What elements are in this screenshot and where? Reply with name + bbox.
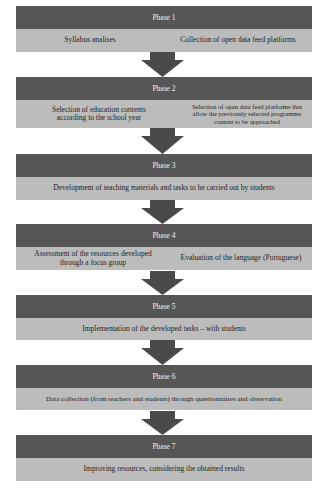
phase-1-body: Syllabus analises Collection of open dat… [16,29,312,52]
phase-7: Phase 7 Improving resources, considering… [16,435,312,481]
phase-6-title: Phase 6 [16,365,312,388]
phase-6-body: Data collection (from teachers and stude… [16,388,312,410]
phase-1-item-2: Collection of open data feed platforms [164,36,312,45]
phase-5-item-1: Implementation of the developed tasks – … [16,325,312,334]
phase-5: Phase 5 Implementation of the developed … [16,295,312,340]
phase-4: Phase 4 Assessment of the resources deve… [16,224,312,270]
phase-1-item-1: Syllabus analises [16,36,164,45]
down-arrow-icon [141,411,184,436]
phase-3-body: Development of teaching materials and ta… [16,177,312,200]
phase-3: Phase 3 Development of teaching material… [16,154,312,200]
down-arrow-icon [141,200,184,225]
phase-2-title: Phase 2 [16,77,312,100]
phase-4-item-1: Assessment of the resources developed th… [16,250,170,267]
phase-2-item-2: Selection of open data feed platforms th… [182,103,312,126]
phase-6-item-1: Data collection (from teachers and stude… [16,395,312,404]
phase-5-body: Implementation of the developed tasks – … [16,318,312,340]
phase-1: Phase 1 Syllabus analises Collection of … [16,6,312,52]
phase-6: Phase 6 Data collection (from teachers a… [16,365,312,410]
phase-4-title: Phase 4 [16,224,312,247]
phase-7-body: Improving resources, considering the obt… [16,458,312,481]
phase-3-title: Phase 3 [16,154,312,177]
phase-3-item-1: Development of teaching materials and ta… [16,184,312,193]
phase-2-body: Selection of education contents accordin… [16,100,312,128]
down-arrow-icon [141,340,184,365]
phase-7-title: Phase 7 [16,435,312,458]
down-arrow-icon [141,271,184,296]
down-arrow-icon [141,52,184,77]
phase-5-title: Phase 5 [16,295,312,318]
phase-7-item-1: Improving resources, considering the obt… [16,465,312,474]
phase-4-item-2: Evaluation of the language (Portuguese) [170,254,312,263]
phase-2: Phase 2 Selection of education contents … [16,77,312,128]
phase-4-body: Assessment of the resources developed th… [16,247,312,270]
phase-1-title: Phase 1 [16,6,312,29]
down-arrow-icon [141,128,184,153]
phase-2-item-1: Selection of education contents accordin… [16,106,182,123]
